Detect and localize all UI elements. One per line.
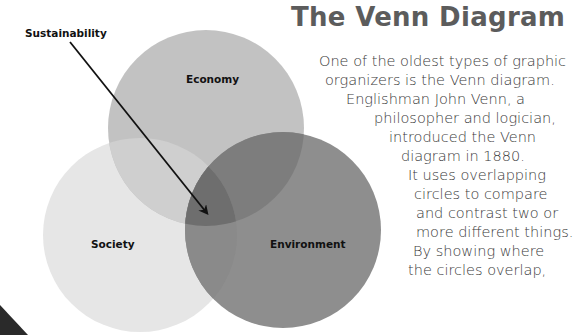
body-line: diagram in 1880.: [401, 147, 525, 165]
body-line: philosopher and logician,: [374, 109, 556, 127]
body-line: It uses overlapping: [408, 166, 546, 184]
body-line: and contrast two or: [416, 204, 558, 222]
body-line: the circles overlap,: [408, 261, 546, 279]
label-society: Society: [91, 238, 135, 250]
label-environment: Environment: [270, 238, 346, 250]
body-line: Englishman John Venn, a: [346, 90, 525, 108]
corner-decoration: [0, 305, 28, 335]
body-line: One of the oldest types of graphic: [319, 52, 566, 70]
body-line: introduced the Venn: [389, 128, 536, 146]
label-economy: Economy: [186, 73, 239, 85]
page-title: The Venn Diagram: [291, 2, 565, 32]
body-line: circles to compare: [414, 185, 548, 203]
label-sustainability: Sustainability: [25, 27, 107, 39]
body-line: more different things.: [416, 223, 573, 241]
body-line: organizers is the Venn diagram.: [325, 71, 555, 89]
body-line: By showing where: [413, 242, 544, 260]
